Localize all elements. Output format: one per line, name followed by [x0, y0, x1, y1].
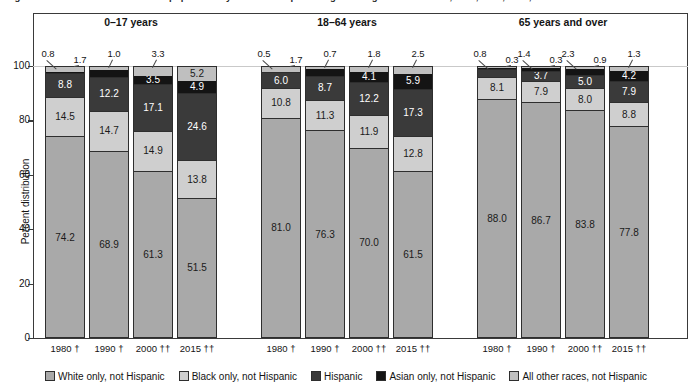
bar-segment: 86.7 — [522, 103, 560, 338]
figure-root: Figure 2. Percent distribution of the po… — [0, 0, 692, 388]
bar-9[interactable]: 3.77.986.7 — [521, 66, 561, 338]
bar-segment: 7.9 — [522, 82, 560, 103]
bar-segment: 76.3 — [306, 131, 344, 338]
value-label-outside: 1.8 — [362, 48, 386, 59]
value-label-outside: 0.8 — [36, 48, 60, 59]
value-label-outside: 1.4 — [512, 48, 536, 59]
value-label-outside: 2.5 — [406, 48, 430, 59]
bar-segment: 10.8 — [262, 89, 300, 118]
legend-label: All other races, not Hispanic — [522, 371, 647, 382]
legend-label: Black only, not Hispanic — [192, 371, 297, 382]
bar-segment: 3.7 — [522, 72, 560, 82]
y-tickmark-60 — [28, 175, 33, 176]
bar-segment: 24.6 — [178, 94, 216, 161]
value-label-outside: 1.7 — [284, 54, 308, 65]
value-label-outside: 1.7 — [68, 54, 92, 65]
y-tick-40: 40 — [0, 223, 30, 234]
bar-segment: 17.3 — [394, 90, 432, 137]
bar-segment: 7.9 — [610, 82, 648, 103]
bar-segment: 77.8 — [610, 127, 648, 338]
bar-segment: 3.5 — [134, 76, 172, 86]
legend-swatch-icon — [45, 371, 55, 381]
bar-5[interactable]: 8.711.376.3 — [305, 66, 345, 338]
bar-segment: 61.3 — [134, 172, 172, 338]
bar-segment: 12.2 — [350, 83, 388, 116]
legend-item-4[interactable]: All other races, not Hispanic — [509, 371, 647, 382]
value-label-outside: 0.5 — [252, 48, 276, 59]
bar-segment: 14.9 — [134, 132, 172, 173]
bar-segment — [134, 67, 172, 76]
bar-segment: 14.7 — [90, 112, 128, 152]
group-header-2: 65 years and over — [477, 16, 649, 28]
bar-segment — [394, 67, 432, 74]
y-tick-100: 100 — [0, 60, 30, 71]
bar-6[interactable]: 4.112.211.970.0 — [349, 66, 389, 338]
legend-item-0[interactable]: White only, not Hispanic — [45, 371, 165, 382]
y-tick-0: 0 — [0, 332, 30, 343]
value-label-outside: 1.0 — [102, 48, 126, 59]
bar-3[interactable]: 5.24.924.613.851.5 — [177, 66, 217, 338]
value-label-outside: 0.8 — [468, 48, 492, 59]
figure-title: Figure 2. Percent distribution of the po… — [6, 0, 686, 3]
group-header-0: 0–17 years — [45, 16, 217, 28]
value-label-outside: 2.3 — [556, 48, 580, 59]
bar-4[interactable]: 6.010.881.0 — [261, 66, 301, 338]
bar-segment: 51.5 — [178, 199, 216, 338]
y-tickmark-0 — [28, 338, 33, 339]
group-header-1: 18–64 years — [261, 16, 433, 28]
bar-segment: 4.9 — [178, 81, 216, 94]
x-label-7: 2015 †† — [386, 343, 440, 354]
bar-segment: 74.2 — [46, 137, 84, 338]
bar-segment: 5.0 — [566, 76, 604, 90]
y-tickmark-20 — [28, 284, 33, 285]
bar-2[interactable]: 3.517.114.961.3 — [133, 66, 173, 338]
y-tickmark-80 — [28, 120, 33, 121]
bar-10[interactable]: 5.08.083.8 — [565, 66, 605, 338]
bar-1[interactable]: 12.214.768.9 — [89, 66, 129, 338]
bar-segment: 4.2 — [610, 71, 648, 82]
y-tick-60: 60 — [0, 169, 30, 180]
bar-8[interactable]: 8.188.0 — [477, 66, 517, 338]
y-tick-80: 80 — [0, 114, 30, 125]
bar-segment: 11.3 — [306, 101, 344, 132]
bar-segment: 81.0 — [262, 119, 300, 338]
y-axis-label: Percent distribution — [20, 122, 31, 282]
legend-swatch-icon — [179, 371, 189, 381]
legend-swatch-icon — [509, 371, 519, 381]
bar-7[interactable]: 5.917.312.861.5 — [393, 66, 433, 338]
bar-segment: 11.9 — [350, 116, 388, 148]
legend-item-2[interactable]: Hispanic — [311, 371, 362, 382]
bar-segment: 6.0 — [262, 73, 300, 89]
value-label-outside: 0.7 — [318, 48, 342, 59]
bar-segment: 8.1 — [478, 78, 516, 100]
bar-segment: 8.8 — [46, 74, 84, 98]
bar-segment: 88.0 — [478, 100, 516, 338]
bar-0[interactable]: 8.814.574.2 — [45, 66, 85, 338]
legend-label: Asian only, not Hispanic — [389, 371, 495, 382]
value-label-outside: 0.9 — [588, 54, 612, 65]
bar-segment: 14.5 — [46, 98, 84, 137]
bar-11[interactable]: 4.27.98.877.8 — [609, 66, 649, 338]
x-label-11: 2015 †† — [602, 343, 656, 354]
legend-label: White only, not Hispanic — [58, 371, 165, 382]
bar-segment: 68.9 — [90, 152, 128, 338]
bar-segment: 70.0 — [350, 149, 388, 338]
legend-swatch-icon — [311, 371, 321, 381]
bar-segment — [90, 70, 128, 78]
bar-segment — [306, 69, 344, 77]
x-label-3: 2015 †† — [170, 343, 224, 354]
legend-item-3[interactable]: Asian only, not Hispanic — [376, 371, 495, 382]
bar-segment: 4.1 — [350, 72, 388, 83]
bar-segment: 13.8 — [178, 161, 216, 199]
bar-segment: 5.2 — [178, 67, 216, 81]
legend: White only, not HispanicBlack only, not … — [0, 366, 692, 386]
value-label-outside: 3.3 — [146, 48, 170, 59]
bar-segment: 12.8 — [394, 137, 432, 172]
bar-segment: 8.0 — [566, 89, 604, 111]
bar-segment: 12.2 — [90, 78, 128, 111]
bar-segment: 8.7 — [306, 77, 344, 101]
bar-segment — [478, 70, 516, 78]
legend-item-1[interactable]: Black only, not Hispanic — [179, 371, 297, 382]
legend-swatch-icon — [376, 371, 386, 381]
bar-segment: 5.9 — [394, 74, 432, 90]
